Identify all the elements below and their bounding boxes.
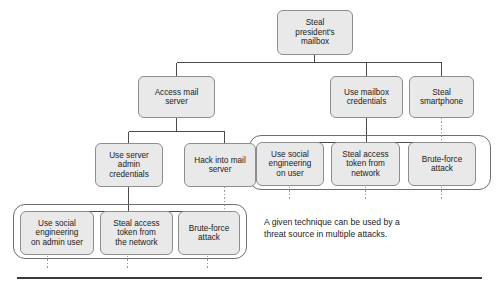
node-steal-access-token-from-the-network-label: Steal access token from the network	[103, 219, 170, 247]
node-use-server-admin-credentials[interactable]: Use server admin credentials	[95, 143, 163, 187]
node-root-steal-presidents-mailbox[interactable]: Steal president's mailbox	[277, 10, 353, 55]
node-hack-into-mail-server-label: Hack into mail server	[187, 156, 253, 175]
attack-tree-figure: Steal president's mailbox Access mail se…	[0, 0, 499, 286]
node-use-mailbox-credentials[interactable]: Use mailbox credentials	[330, 76, 403, 118]
node-steal-access-token-from-the-network[interactable]: Steal access token from the network	[100, 211, 173, 255]
node-steal-smartphone-label: Steal smartphone	[412, 88, 471, 107]
node-brute-force-attack-right[interactable]: Brute-force attack	[408, 142, 476, 186]
node-brute-force-attack-right-label: Brute-force attack	[411, 155, 473, 174]
node-use-social-engineering-on-user[interactable]: Use social engineering on user	[256, 142, 324, 186]
node-steal-access-token-from-network-label: Steal access token from network	[334, 150, 397, 178]
node-use-mailbox-credentials-label: Use mailbox credentials	[333, 88, 400, 107]
node-steal-smartphone[interactable]: Steal smartphone	[409, 76, 474, 118]
node-use-social-engineering-on-admin-user-label: Use social engineering on admin user	[23, 219, 91, 247]
node-brute-force-attack-left[interactable]: Brute-force attack	[178, 211, 240, 255]
figure-caption: A given technique can be used by a threa…	[264, 216, 479, 240]
node-use-server-admin-credentials-label: Use server admin credentials	[98, 151, 160, 179]
node-access-mail-server[interactable]: Access mail server	[138, 76, 215, 118]
node-brute-force-attack-left-label: Brute-force attack	[181, 224, 237, 243]
node-root-label: Steal president's mailbox	[280, 18, 350, 46]
node-steal-access-token-from-network[interactable]: Steal access token from network	[331, 142, 400, 186]
bottom-divider	[17, 277, 482, 279]
node-access-mail-server-label: Access mail server	[141, 88, 212, 107]
node-use-social-engineering-on-user-label: Use social engineering on user	[259, 150, 321, 178]
node-use-social-engineering-on-admin-user[interactable]: Use social engineering on admin user	[20, 211, 94, 255]
node-hack-into-mail-server[interactable]: Hack into mail server	[184, 143, 256, 187]
